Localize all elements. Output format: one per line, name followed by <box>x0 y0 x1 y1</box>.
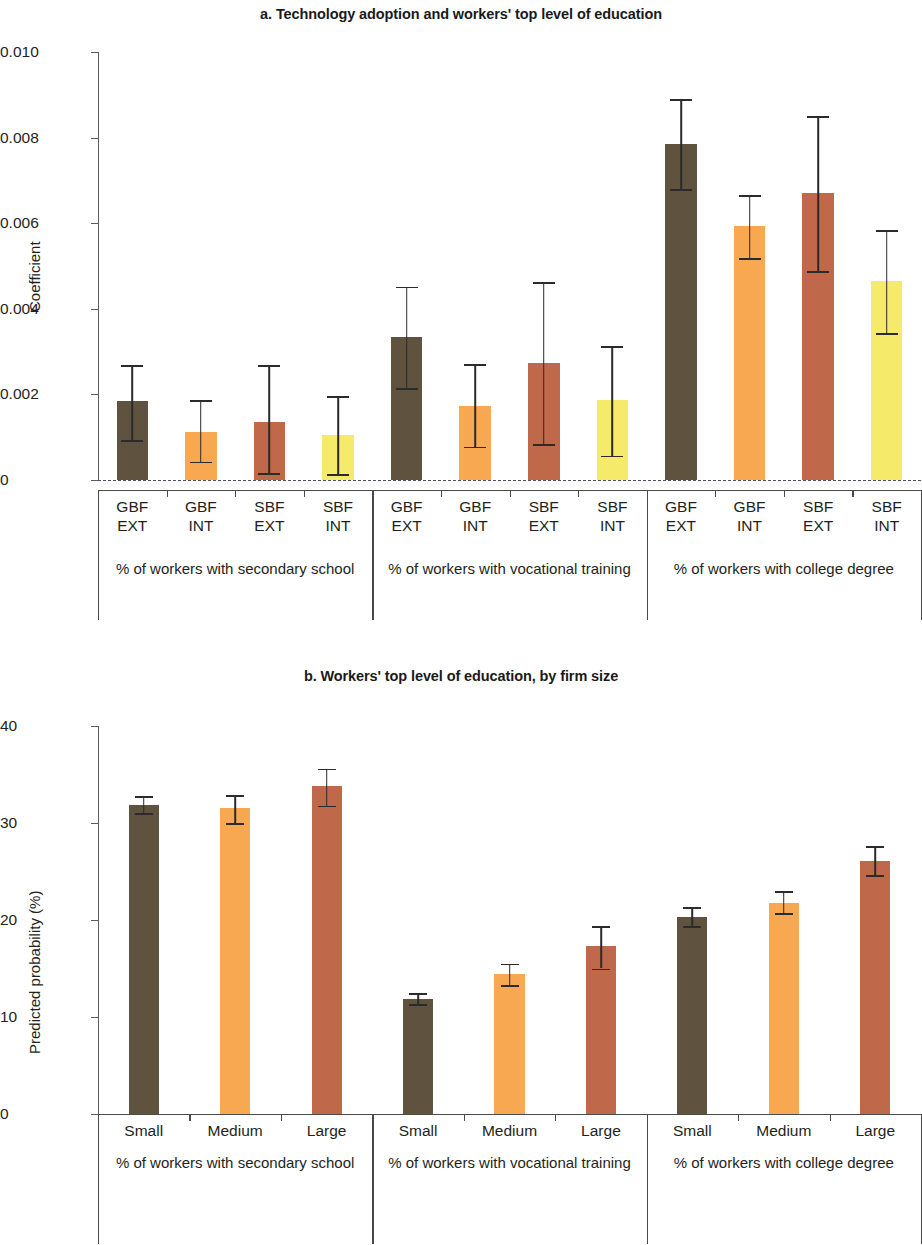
bar[interactable] <box>734 226 766 480</box>
error-bar-cap-lower <box>501 985 519 987</box>
category-label: Small <box>98 1122 189 1141</box>
y-axis-tick-label: 0.002 <box>0 385 85 403</box>
category-label: GBF INT <box>167 498 236 536</box>
y-axis-tick-label: 0.008 <box>0 129 85 147</box>
y-axis-tick-mark <box>91 1114 98 1115</box>
error-bar <box>817 116 819 271</box>
error-bar-cap-upper <box>876 230 898 232</box>
error-bar-cap-lower <box>464 447 486 449</box>
error-bar <box>886 230 888 333</box>
group-label: % of workers with secondary school <box>102 560 368 579</box>
bar[interactable] <box>403 999 433 1114</box>
category-label: SBF EXT <box>235 498 304 536</box>
category-tick <box>830 1114 831 1121</box>
panel-b-plot: 010203040Predicted probability (%)SmallM… <box>0 684 922 1245</box>
y-axis-tick-mark <box>91 138 98 139</box>
category-tick <box>441 490 442 497</box>
category-label: SBF INT <box>304 498 373 536</box>
y-axis-tick-mark <box>91 726 98 727</box>
category-tick <box>281 1114 282 1121</box>
panel-a: a. Technology adoption and workers' top … <box>0 0 922 640</box>
error-bar-cap-lower <box>592 969 610 971</box>
y-axis-label: Predicted probability (%) <box>26 891 43 1054</box>
bar[interactable] <box>312 786 342 1114</box>
y-axis-tick-mark <box>91 309 98 310</box>
error-bar <box>600 926 602 969</box>
error-bar-cap-lower <box>135 813 153 815</box>
category-label: SBF INT <box>852 498 921 536</box>
y-axis-tick-mark <box>91 823 98 824</box>
panel-a-title: a. Technology adoption and workers' top … <box>0 0 922 22</box>
error-bar-cap-lower <box>226 823 244 825</box>
panel-a-plot: 00.0020.0040.0060.0080.010CoefficientGBF… <box>0 22 922 637</box>
error-bar <box>326 769 328 806</box>
y-axis-tick-mark <box>91 52 98 53</box>
error-bar-cap-upper <box>775 891 793 893</box>
error-bar-cap-lower <box>409 1004 427 1006</box>
y-axis-tick-label: 0 <box>0 471 85 489</box>
category-label: SBF EXT <box>509 498 578 536</box>
bar[interactable] <box>586 946 616 1114</box>
error-bar-cap-lower <box>396 388 418 390</box>
bar[interactable] <box>494 974 524 1114</box>
category-label: Large <box>830 1122 921 1141</box>
error-bar-cap-upper <box>501 964 519 966</box>
panel-b: b. Workers' top level of education, by f… <box>0 640 922 1245</box>
error-bar <box>692 907 694 925</box>
error-bar-cap-upper <box>592 926 610 928</box>
category-tick <box>189 1114 190 1121</box>
error-bar-cap-upper <box>318 769 336 771</box>
category-label: Large <box>555 1122 646 1141</box>
category-label: GBF INT <box>441 498 510 536</box>
error-bar-cap-lower <box>866 875 884 877</box>
error-bar-cap-upper <box>226 795 244 797</box>
error-bar <box>749 195 751 257</box>
category-label: Small <box>647 1122 738 1141</box>
category-tick <box>464 1114 465 1121</box>
error-bar-cap-lower <box>258 473 280 475</box>
y-axis-tick-mark <box>91 920 98 921</box>
error-bar-cap-upper <box>807 116 829 118</box>
y-axis-tick-mark <box>91 480 98 481</box>
category-tick <box>555 1114 556 1121</box>
y-axis-tick-label: 0.010 <box>0 43 85 61</box>
error-bar <box>234 795 236 823</box>
bar[interactable] <box>129 805 159 1114</box>
bar[interactable] <box>860 861 890 1114</box>
error-bar-cap-lower <box>318 806 336 808</box>
category-label: Medium <box>464 1122 555 1141</box>
bar[interactable] <box>220 808 250 1114</box>
error-bar <box>143 796 145 813</box>
y-axis-tick-label: 30 <box>0 814 85 832</box>
y-axis-tick-mark <box>91 1017 98 1018</box>
y-axis-label: Coefficient <box>26 241 43 312</box>
error-bar-cap-lower <box>670 189 692 191</box>
y-axis-tick-label: 0.006 <box>0 214 85 232</box>
error-bar <box>783 891 785 913</box>
error-bar-cap-lower <box>601 456 623 458</box>
category-tick <box>167 490 168 497</box>
error-bar <box>337 396 339 474</box>
error-bar-cap-lower <box>121 440 143 442</box>
bar[interactable] <box>677 917 707 1114</box>
error-bar-cap-upper <box>739 195 761 197</box>
error-bar-cap-lower <box>807 271 829 273</box>
error-bar-cap-upper <box>409 993 427 995</box>
panel-b-title: b. Workers' top level of education, by f… <box>0 640 922 684</box>
bar[interactable] <box>665 144 697 480</box>
category-axis-line <box>98 1114 921 1115</box>
category-label: Small <box>372 1122 463 1141</box>
error-bar <box>200 400 202 461</box>
error-bar <box>543 282 545 444</box>
category-tick <box>784 490 785 497</box>
bar[interactable] <box>769 903 799 1114</box>
error-bar-cap-lower <box>876 333 898 335</box>
category-tick <box>852 490 853 497</box>
category-label: SBF EXT <box>784 498 853 536</box>
error-bar-cap-upper <box>396 287 418 289</box>
error-bar-cap-upper <box>258 365 280 367</box>
y-axis-tick-mark <box>91 394 98 395</box>
category-tick <box>304 490 305 497</box>
y-axis-line <box>98 52 99 480</box>
error-bar <box>874 846 876 875</box>
